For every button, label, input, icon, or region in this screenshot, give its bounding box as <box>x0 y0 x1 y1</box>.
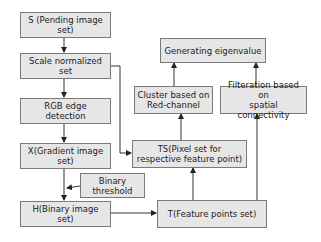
node-label: Scale normalized set <box>23 56 108 76</box>
node-label: TS(Pixel set for respective feature poin… <box>137 144 242 164</box>
node-pending-image-set: S (Pending image set) <box>20 12 111 38</box>
node-label: Generating eigenvalue <box>164 46 261 56</box>
node-rgb-edge-detection: RGB edge detection <box>20 98 111 124</box>
node-label: T(Feature points set) <box>168 209 256 219</box>
node-label: Filteration based on spatial connectivit… <box>223 80 304 120</box>
node-gradient-image-set: X(Gradient image set) <box>20 143 111 169</box>
node-cluster-red-channel: Cluster based on Red-channel <box>134 86 213 114</box>
node-label: Cluster based on Red-channel <box>138 90 210 110</box>
node-binary-threshold: Binary threshold <box>80 173 145 198</box>
node-feature-points-set: T(Feature points set) <box>157 200 267 228</box>
node-scale-normalized-set: Scale normalized set <box>20 53 111 79</box>
node-filteration-spatial-connectivity: Filteration based on spatial connectivit… <box>220 86 307 114</box>
node-label: RGB edge detection <box>23 101 108 121</box>
node-binary-image-set: H(Binary image set) <box>20 201 111 227</box>
node-label: H(Binary image set) <box>23 204 108 224</box>
node-label: S (Pending image set) <box>23 15 108 35</box>
node-pixel-set-feature-point: TS(Pixel set for respective feature poin… <box>132 140 247 168</box>
node-label: X(Gradient image set) <box>23 146 108 166</box>
node-generating-eigenvalue: Generating eigenvalue <box>160 38 266 63</box>
node-label: Binary threshold <box>83 176 142 196</box>
